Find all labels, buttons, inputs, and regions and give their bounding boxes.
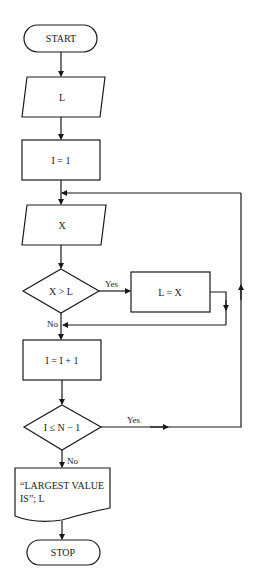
increment-i-label: I = I + 1 [46,355,79,366]
input-l-parallelogram: L [22,77,105,117]
decision-loop-label: I ≤ N − 1 [44,422,81,433]
yes-label-1: Yes [105,279,119,289]
input-x-parallelogram: X [22,205,106,245]
assign-exit-line [210,292,226,325]
no-label-2: No [67,456,78,466]
output-line-1: “LARGEST VALUE [20,480,104,491]
flowchart: START L I = 1 X X > L Yes L = X No I = I… [0,0,255,582]
assign-l-label: L = X [158,287,182,298]
start-label: START [46,33,76,44]
assign-l-process: L = X [131,272,210,312]
init-i-process: I = 1 [22,140,100,180]
start-terminator: START [24,25,97,52]
init-i-label: I = 1 [52,155,71,166]
decision-x-gt-l: X > L [23,269,99,313]
yes-label-2: Yes [127,415,141,425]
no-label-1: No [47,319,58,329]
input-x-label: X [58,220,66,231]
decision-loop: I ≤ N − 1 [24,405,101,450]
stop-label: STOP [51,547,76,558]
output-document: “LARGEST VALUE IS”; L [15,468,110,521]
stop-terminator: STOP [27,540,100,565]
increment-i-process: I = I + 1 [23,340,101,380]
output-line-2: IS”; L [20,493,45,504]
decision-x-gt-l-label: X > L [49,286,73,297]
input-l-label: L [59,92,65,103]
